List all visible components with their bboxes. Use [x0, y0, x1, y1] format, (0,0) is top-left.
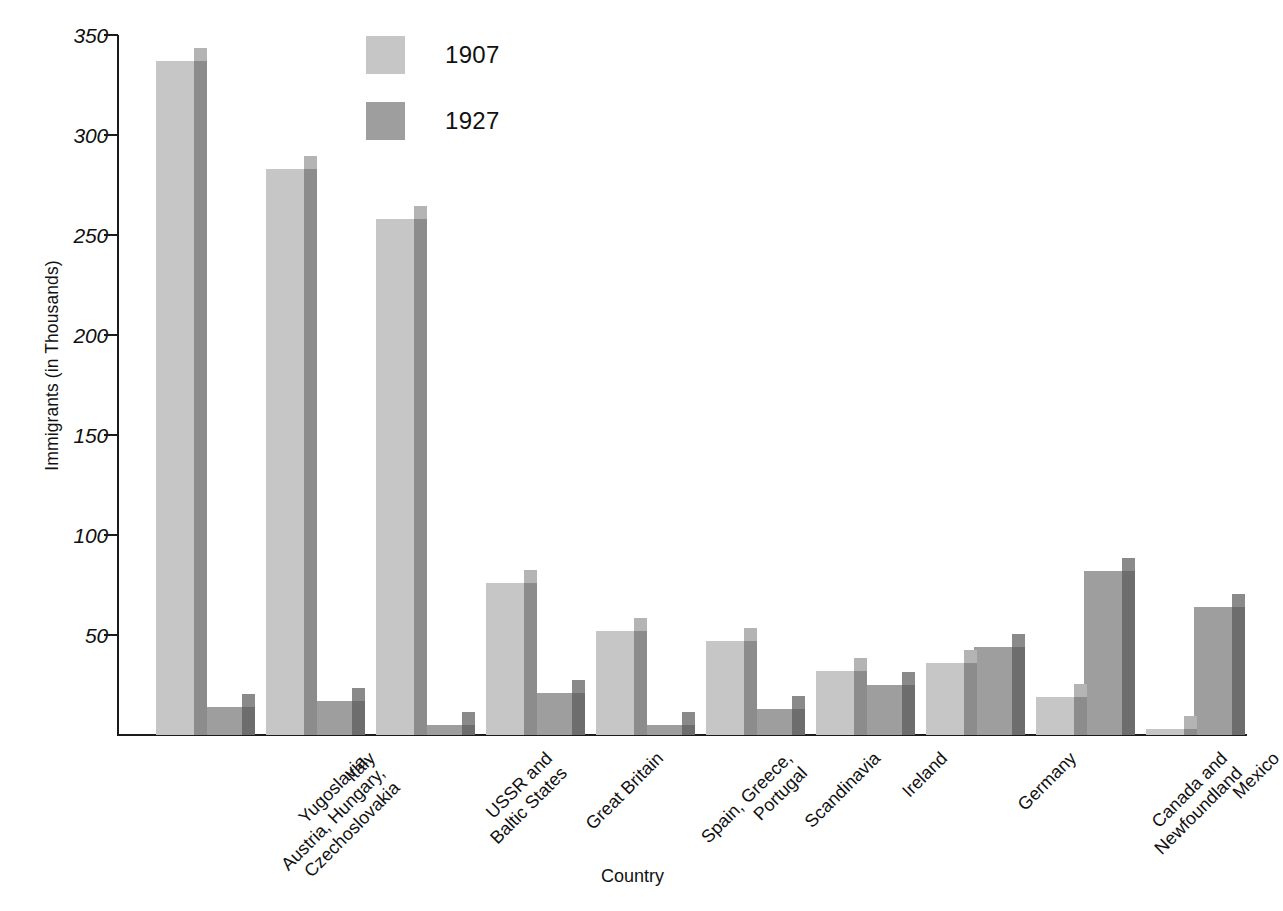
bar-1907[interactable]	[816, 658, 867, 735]
y-tick-label-350: 350	[48, 25, 108, 46]
bar-1927[interactable]	[1194, 594, 1245, 735]
bar-top	[1074, 684, 1087, 697]
legend-item-1907[interactable]: 1907	[366, 36, 500, 74]
bar-1927[interactable]	[1084, 558, 1135, 735]
bar-side	[682, 725, 695, 735]
bar-1907[interactable]	[1146, 716, 1197, 735]
bar-face	[486, 583, 524, 735]
bar-face	[266, 169, 304, 735]
bar-face	[424, 725, 462, 735]
bar-top	[854, 658, 867, 671]
bar-top	[462, 712, 475, 725]
bar-1927[interactable]	[644, 712, 695, 735]
bar-top	[634, 618, 647, 631]
bar-top	[964, 650, 977, 663]
y-tick-label-250: 250	[48, 225, 108, 246]
bar-1927[interactable]	[864, 672, 915, 735]
bar-1907[interactable]	[1036, 684, 1087, 735]
bar-side	[462, 725, 475, 735]
bar-side	[242, 707, 255, 735]
y-tick-label-150: 150	[48, 425, 108, 446]
bar-1927[interactable]	[754, 696, 805, 735]
bar-top	[1122, 558, 1135, 571]
bar-face	[816, 671, 854, 735]
bar-group	[926, 35, 1025, 735]
bar-1927[interactable]	[974, 634, 1025, 735]
bar-side	[1012, 647, 1025, 735]
y-tick-label-50: 50	[48, 625, 108, 646]
bar-1927[interactable]	[424, 712, 475, 735]
legend-swatch-1927	[366, 102, 405, 140]
bar-top	[572, 680, 585, 693]
bar-top	[1184, 716, 1197, 729]
bar-1907[interactable]	[376, 206, 427, 735]
bar-face	[596, 631, 634, 735]
bar-group	[1036, 35, 1135, 735]
legend-label-1907: 1907	[445, 41, 500, 69]
bar-side	[352, 701, 365, 735]
y-axis-tick-labels: 35030025020015010050	[46, 0, 108, 911]
y-tick-mark-200	[104, 334, 118, 336]
bar-side	[1232, 607, 1245, 735]
bar-side	[854, 671, 867, 735]
bar-group	[486, 35, 585, 735]
bar-face	[864, 685, 902, 735]
x-tick-label: Scandinavia	[800, 748, 884, 832]
bar-top	[792, 696, 805, 709]
bar-1907[interactable]	[156, 48, 207, 735]
bar-side	[414, 219, 427, 735]
bar-side	[304, 169, 317, 735]
y-tick-label-100: 100	[48, 525, 108, 546]
bar-side	[902, 685, 915, 735]
x-axis-title: Country	[0, 866, 1265, 887]
bar-1907[interactable]	[706, 628, 757, 735]
bar-side	[524, 583, 537, 735]
legend-item-1927[interactable]: 1927	[366, 102, 500, 140]
x-tick-label: USSR and Baltic States	[471, 748, 572, 849]
bar-side	[1122, 571, 1135, 735]
bar-group	[706, 35, 805, 735]
y-tick-mark-100	[104, 534, 118, 536]
bar-1907[interactable]	[486, 570, 537, 735]
plot-area	[119, 35, 1247, 735]
bar-group	[376, 35, 475, 735]
bar-top	[744, 628, 757, 641]
bar-side	[634, 631, 647, 735]
bar-face	[376, 219, 414, 735]
bar-face	[156, 61, 194, 735]
bar-1907[interactable]	[926, 650, 977, 735]
bar-1927[interactable]	[534, 680, 585, 735]
bar-face	[644, 725, 682, 735]
bar-side	[1184, 729, 1197, 735]
bar-face	[534, 693, 572, 735]
x-tick-label: Spain, Greece, Portugal	[697, 748, 812, 863]
bar-face	[1146, 729, 1184, 735]
bar-face	[974, 647, 1012, 735]
y-tick-label-300: 300	[48, 125, 108, 146]
bar-1907[interactable]	[596, 618, 647, 735]
y-tick-mark-300	[104, 134, 118, 136]
bar-side	[1074, 697, 1087, 735]
bar-face	[1194, 607, 1232, 735]
bar-top	[524, 570, 537, 583]
x-tick-label: Germany	[1013, 748, 1080, 815]
x-tick-label: Ireland	[898, 748, 952, 802]
y-tick-mark-50	[104, 634, 118, 636]
bar-group	[1146, 35, 1245, 735]
bar-top	[242, 694, 255, 707]
bar-side	[964, 663, 977, 735]
legend-label-1927: 1927	[445, 107, 500, 135]
bar-face	[754, 709, 792, 735]
bar-1927[interactable]	[314, 688, 365, 735]
bar-group	[266, 35, 365, 735]
bar-top	[352, 688, 365, 701]
bar-1907[interactable]	[266, 156, 317, 735]
bar-top	[1012, 634, 1025, 647]
bar-top	[902, 672, 915, 685]
bar-face	[314, 701, 352, 735]
bar-1927[interactable]	[204, 694, 255, 735]
bar-side	[792, 709, 805, 735]
y-tick-mark-150	[104, 434, 118, 436]
bar-group	[816, 35, 915, 735]
